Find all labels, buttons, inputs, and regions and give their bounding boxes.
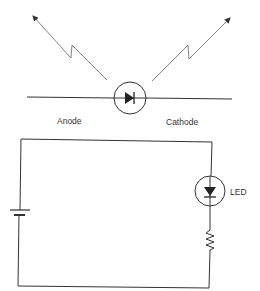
- anode-label: Anode: [57, 116, 82, 126]
- led-label: LED: [230, 187, 247, 197]
- bottom-wire: [18, 286, 209, 288]
- led-circuit-figure: LED: [10, 139, 247, 288]
- anode-wire: [27, 97, 114, 98]
- cathode-label: Cathode: [166, 117, 198, 127]
- left-light-ray-icon: [33, 16, 107, 80]
- led-triangle-icon: [204, 187, 216, 196]
- diagram-canvas: Anode Cathode LED: [0, 0, 260, 291]
- cathode-wire: [146, 98, 232, 99]
- diode-triangle-icon: [125, 92, 134, 104]
- left-wire-lower: [18, 215, 19, 286]
- top-wire: [21, 139, 212, 142]
- top-diode-figure: Anode Cathode: [27, 16, 232, 127]
- left-wire-upper: [20, 139, 21, 210]
- right-wire-upper: [211, 142, 212, 176]
- right-light-ray-icon: [152, 18, 230, 81]
- right-wire-lower: [209, 250, 210, 288]
- resistor-icon: [206, 230, 214, 250]
